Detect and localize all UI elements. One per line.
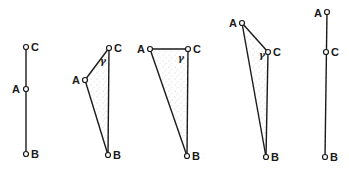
point-c (266, 50, 271, 55)
point-b (185, 154, 190, 159)
label-b: B (271, 151, 279, 163)
segment-ab (325, 12, 327, 157)
label-b: B (113, 149, 121, 161)
triangle-sequence-diagram: C A B C A B γ A C B γ (0, 0, 349, 179)
figure-1-collinear: C A B (12, 41, 39, 160)
point-c (324, 50, 329, 55)
label-c: C (331, 46, 339, 58)
point-a (148, 47, 153, 52)
label-b: B (192, 150, 200, 162)
point-c (107, 46, 112, 51)
label-c: C (193, 43, 201, 55)
label-c: C (31, 41, 39, 53)
point-a (83, 78, 88, 83)
label-b: B (330, 151, 338, 163)
label-b: B (31, 148, 39, 160)
figure-3-triangle: A C B γ (137, 43, 201, 162)
point-b (323, 155, 328, 160)
point-b (24, 152, 29, 157)
label-c: C (273, 46, 281, 58)
angle-gamma-label: γ (178, 53, 185, 63)
point-c (24, 45, 29, 50)
point-a (240, 21, 245, 26)
point-b (106, 153, 111, 158)
segment-cb (187, 49, 188, 156)
point-c (186, 47, 191, 52)
point-a (24, 87, 29, 92)
angle-gamma-label: γ (259, 50, 266, 60)
figure-4-triangle: A C B γ (229, 17, 281, 163)
label-a: A (137, 43, 145, 55)
label-a: A (314, 7, 322, 19)
figure-2-triangle: C A B γ (72, 42, 122, 161)
angle-gamma-label: γ (100, 56, 107, 66)
label-c: C (114, 42, 122, 54)
point-b (264, 155, 269, 160)
label-a: A (12, 83, 20, 95)
label-a: A (72, 74, 80, 86)
figure-5-collinear: A C B (314, 7, 339, 163)
segment-cb (108, 48, 109, 155)
label-a: A (229, 17, 237, 29)
point-a (325, 10, 330, 15)
